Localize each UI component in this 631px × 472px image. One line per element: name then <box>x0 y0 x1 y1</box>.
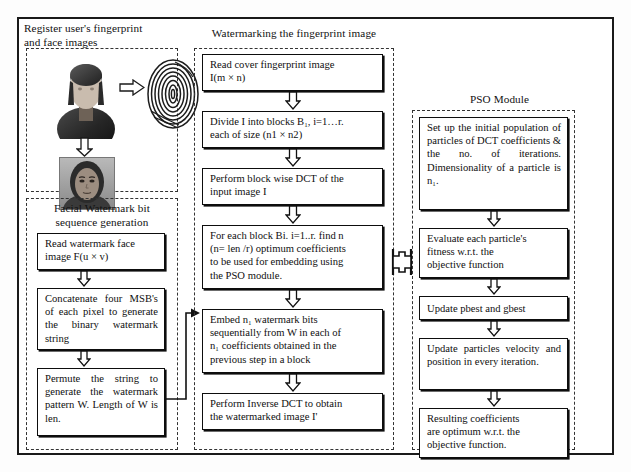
pso-step-update-pbest-gbest[interactable]: Update pbest and gbest <box>419 296 568 320</box>
watermarking-step-read-cover-fingerprint[interactable]: Read cover fingerprint image I(m × n) <box>202 54 383 91</box>
watermarking-step-block-wise-dct[interactable]: Perform block wise DCT of the input imag… <box>202 168 383 205</box>
pso-step-update-velocity-position-text: Update particles velocity and position i… <box>427 342 561 368</box>
facial-step-concatenate-msb[interactable]: Concatenate four MSB's of each pixel to … <box>37 288 165 350</box>
facial-step-permute-string-text: Permute the string to generate the water… <box>45 372 158 425</box>
biometric-images-panel <box>27 49 177 191</box>
arrow-watermarking-2-icon <box>285 149 299 169</box>
watermarking-step-find-optimum-coefficients-text: For each block Bi. i=1..r. find n (n= le… <box>210 229 376 282</box>
arrow-watermarking-4-icon <box>285 290 299 310</box>
watermarking-step-embed-watermark-bits-text: Embed n₁ watermark bits sequentially fro… <box>210 313 376 366</box>
watermarking-step-divide-blocks-text: Divide I into blocks B₁, i=1…r. each of … <box>210 115 376 141</box>
arrow-watermarking-5-icon <box>285 374 299 394</box>
pso-step-evaluate-fitness[interactable]: Evaluate each particle's fitness w.r.t. … <box>419 228 568 278</box>
pso-step-evaluate-fitness-text: Evaluate each particle's fitness w.r.t. … <box>427 232 561 272</box>
pso-step-setup-population-text: Set up the initial population of particl… <box>427 121 561 187</box>
facial-watermark-group-caption: Facial Watermark bit sequence generation <box>30 202 174 229</box>
watermarking-step-block-wise-dct-text: Perform block wise DCT of the input imag… <box>210 172 376 198</box>
connector-watermarking-to-pso <box>391 247 413 277</box>
register-group-caption: Register user's fingerprint and face ima… <box>24 22 199 49</box>
pso-step-setup-population[interactable]: Set up the initial population of particl… <box>419 117 568 210</box>
diagram-canvas: Register user's fingerprint and face ima… <box>0 0 631 472</box>
watermarking-step-divide-blocks[interactable]: Divide I into blocks B₁, i=1…r. each of … <box>202 111 383 148</box>
pso-step-resulting-coefficients[interactable]: Resulting coefficients are optimum w.r.t… <box>419 408 568 458</box>
watermarking-step-read-cover-fingerprint-text: Read cover fingerprint image I(m × n) <box>210 58 376 84</box>
arrow-person-to-face-icon <box>76 137 93 157</box>
watermarking-group-caption: Watermarking the fingerprint image <box>192 27 396 41</box>
pso-step-update-pbest-gbest-text: Update pbest and gbest <box>427 302 526 315</box>
arrow-person-to-fingerprint-icon <box>119 79 145 96</box>
watermarking-step-find-optimum-coefficients[interactable]: For each block Bi. i=1..r. find n (n= le… <box>202 225 383 289</box>
watermarking-step-inverse-dct[interactable]: Perform Inverse DCT to obtain the waterm… <box>202 393 383 430</box>
arrow-watermarking-3-icon <box>285 206 299 226</box>
watermarking-step-embed-watermark-bits[interactable]: Embed n₁ watermark bits sequentially fro… <box>202 309 383 373</box>
person-photo <box>55 61 117 139</box>
arrow-watermarking-1-icon <box>285 92 299 112</box>
fingerprint-image <box>145 57 201 131</box>
register-group-container <box>26 48 178 192</box>
facial-step-permute-string[interactable]: Permute the string to generate the water… <box>37 368 165 436</box>
pso-step-resulting-coefficients-text: Resulting coefficients are optimum w.r.t… <box>427 412 561 452</box>
facial-step-read-watermark-face-text: Read watermark face image F(u × v) <box>45 237 158 263</box>
watermarking-step-inverse-dct-text: Perform Inverse DCT to obtain the waterm… <box>210 397 376 423</box>
pso-step-update-velocity-position[interactable]: Update particles velocity and position i… <box>419 338 568 390</box>
facial-step-read-watermark-face[interactable]: Read watermark face image F(u × v) <box>37 233 165 270</box>
facial-step-concatenate-msb-text: Concatenate four MSB's of each pixel to … <box>45 292 158 345</box>
pso-group-caption: PSO Module <box>412 93 587 107</box>
